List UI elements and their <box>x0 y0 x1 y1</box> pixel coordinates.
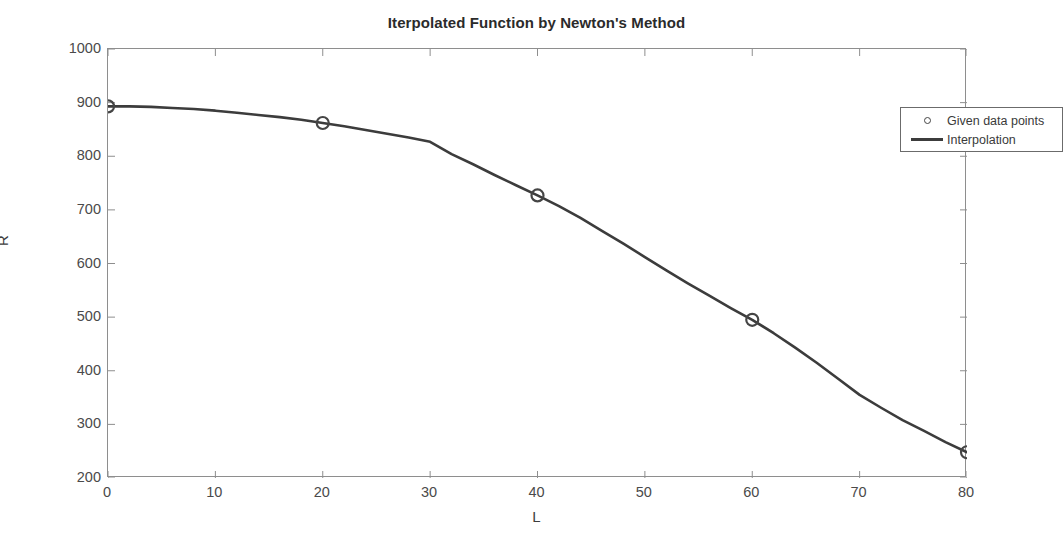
y-tick-label: 800 <box>39 147 101 163</box>
x-tick-label: 10 <box>184 484 244 500</box>
plot-area: Given data points Interpolation <box>107 48 966 477</box>
x-tick-label: 80 <box>936 484 996 500</box>
legend-entry-given-data-points: Given data points <box>901 111 1062 130</box>
x-axis-label: L <box>107 508 966 525</box>
x-tick-label: 0 <box>77 484 137 500</box>
y-tick-label: 1000 <box>39 40 101 56</box>
x-tick-label: 40 <box>507 484 567 500</box>
chart-title: Iterpolated Function by Newton's Method <box>107 14 966 31</box>
y-tick-label: 500 <box>39 308 101 324</box>
x-tick-label: 60 <box>721 484 781 500</box>
x-axis-tick-labels: 01020304050607080 <box>107 484 966 508</box>
y-tick-label: 400 <box>39 362 101 378</box>
circle-marker-icon <box>907 117 947 124</box>
legend-box: Given data points Interpolation <box>900 107 1063 152</box>
x-tick-label: 50 <box>614 484 674 500</box>
y-tick-label: 200 <box>39 469 101 485</box>
legend-entry-interpolation: Interpolation <box>901 130 1062 149</box>
given-data-point-markers <box>108 100 967 458</box>
legend-label-interpolation: Interpolation <box>947 133 1016 147</box>
y-tick-label: 700 <box>39 201 101 217</box>
x-tick-label: 20 <box>292 484 352 500</box>
interpolation-curve <box>108 106 967 452</box>
y-tick-label: 300 <box>39 415 101 431</box>
legend-label-given-data-points: Given data points <box>947 114 1044 128</box>
y-tick-label: 600 <box>39 255 101 271</box>
line-swatch-icon <box>907 138 947 141</box>
x-tick-label: 30 <box>399 484 459 500</box>
plot-svg <box>108 49 967 478</box>
x-tick-label: 70 <box>829 484 889 500</box>
y-axis-tick-labels: 2003004005006007008009001000 <box>33 48 101 477</box>
y-tick-label: 900 <box>39 94 101 110</box>
y-axis-label: R <box>0 235 11 246</box>
